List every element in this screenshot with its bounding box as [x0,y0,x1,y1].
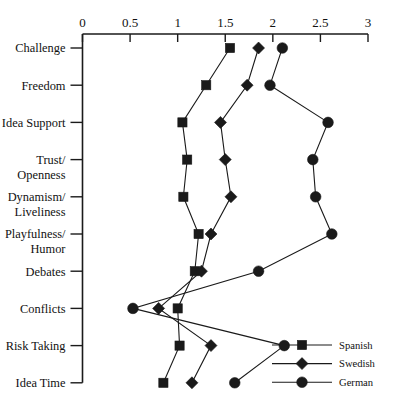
x-axis-tick-label: 0 [79,15,86,30]
series-german [128,43,337,388]
circle-marker [128,303,139,314]
y-axis-category-label: Dynamism/Liveliness [8,190,66,219]
y-axis-category-label: Challenge [15,41,66,55]
series-line [133,48,332,383]
plot-area: 00.511.522.53 ChallengeFreedomIdea Suppo… [0,0,395,407]
x-axis-tick-label: 2.5 [312,15,328,30]
circle-marker [279,340,290,351]
legend-label: German [339,377,374,388]
x-axis-tick-label: 1 [174,15,181,30]
y-axis-category-label: Freedom [21,79,65,93]
y-axis-category-label: Trust/Openness [17,153,66,182]
square-marker [175,341,184,350]
series-line [159,48,259,383]
series-container [128,42,337,389]
x-axis: 00.511.522.53 [79,15,371,42]
square-marker [173,304,182,313]
square-marker [297,340,306,349]
y-axis-category-label: Debates [26,265,66,279]
circle-marker [277,43,288,54]
square-marker [159,378,168,387]
circle-marker [253,266,264,277]
square-marker [202,81,211,90]
circle-marker [327,229,338,240]
square-marker [183,155,192,164]
diamond-marker [186,377,198,389]
x-axis-tick-label: 2 [270,15,277,30]
square-marker [179,192,188,201]
diamond-marker [253,42,265,54]
legend-label: Spanish [339,340,373,351]
x-axis-tick-label: 0.5 [122,15,138,30]
y-axis-category-label: Playfulness/Humor [5,227,66,256]
diamond-marker [241,79,253,91]
legend-label: Swedish [339,358,376,369]
x-axis-tick-label: 1.5 [217,15,233,30]
diamond-marker [225,191,237,203]
circle-marker [310,192,321,203]
circle-marker [229,378,240,389]
diamond-marker [205,228,217,240]
circle-marker [297,377,308,388]
diamond-marker [219,154,231,166]
climate-comparison-chart: 00.511.522.53 ChallengeFreedomIdea Suppo… [0,0,395,407]
square-marker [178,118,187,127]
square-marker [194,229,203,238]
series-line [163,48,230,383]
diamond-marker [296,358,308,370]
x-axis-tick-label: 3 [365,15,372,30]
y-axis-category-label: Risk Taking [6,339,66,353]
legend-item-german[interactable]: German [272,377,374,388]
diamond-marker [205,340,217,352]
y-axis-category-label: Conflicts [20,302,66,316]
circle-marker [323,117,334,128]
circle-marker [308,154,319,165]
square-marker [225,43,234,52]
legend-item-swedish[interactable]: Swedish [272,358,376,370]
y-axis-category-label: Idea Support [2,116,66,130]
diamond-marker [214,116,226,128]
y-axis: ChallengeFreedomIdea SupportTrust/Openne… [2,34,83,390]
circle-marker [265,80,276,91]
y-axis-category-label: Idea Time [16,376,66,390]
